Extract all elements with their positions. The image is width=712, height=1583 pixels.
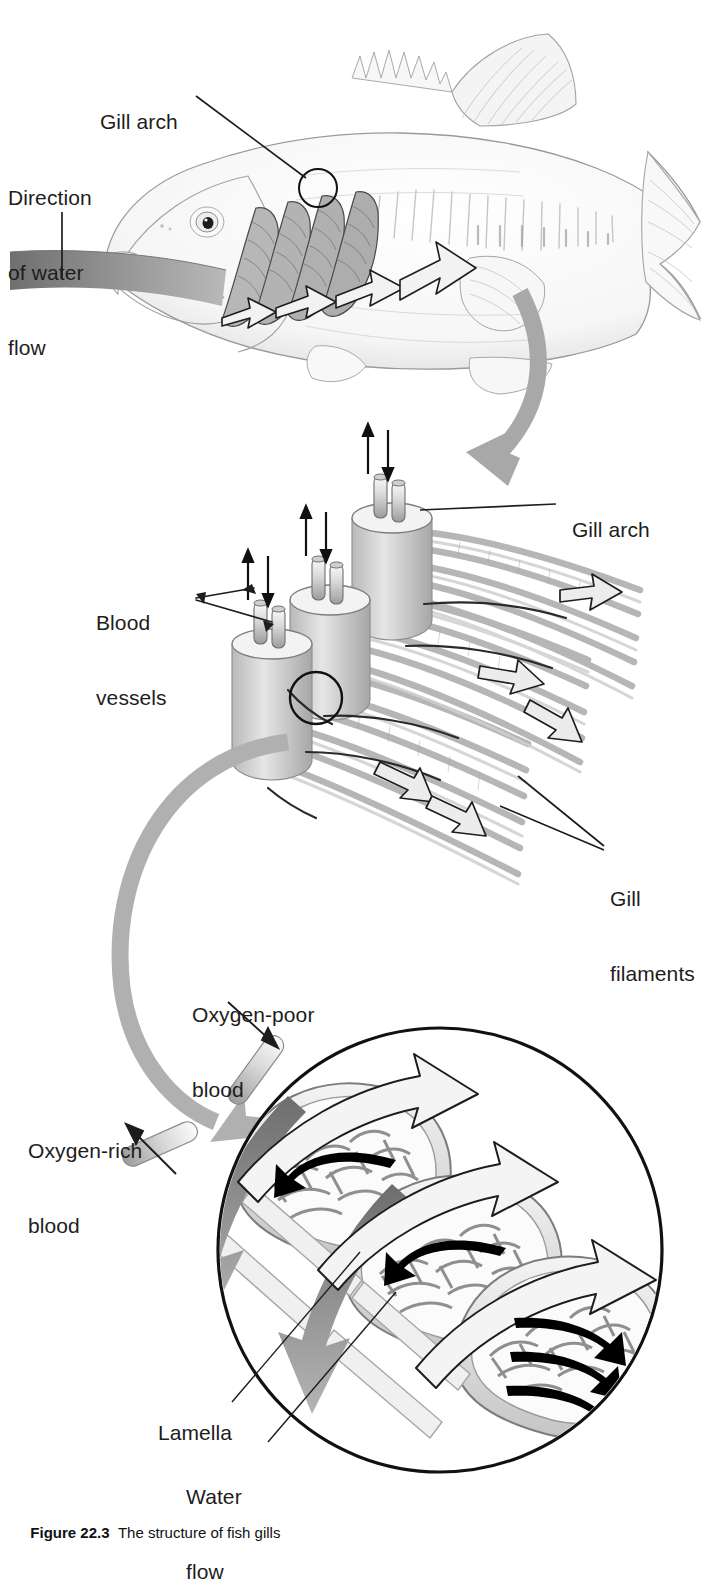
arch3-vessel-a (374, 476, 387, 518)
label-blood-vessels-line-2: vessels (96, 685, 167, 710)
label-oxygen-poor-line-2: blood (192, 1077, 315, 1102)
label-oxygen-rich-line-1: Oxygen-rich (28, 1138, 142, 1163)
label-oxygen-rich-line-2: blood (28, 1213, 142, 1238)
fish-eye (190, 207, 224, 237)
fish-dorsal-fin-spiny (352, 50, 452, 92)
label-oxygen-rich-blood: Oxygen-rich blood (28, 1088, 142, 1263)
label-gill-filaments-line-1: Gill (610, 886, 695, 911)
arch3-up-down-arrows (363, 424, 393, 480)
lamella-end-vessel (663, 1359, 689, 1381)
label-oxygen-poor-blood: Oxygen-poor blood (192, 952, 315, 1127)
arch2-up-down-arrows (301, 506, 331, 562)
label-gill-filaments-line-2: filaments (610, 961, 695, 986)
label-gill-arch-fish: Gill arch (88, 84, 178, 134)
fish-nostril (160, 224, 163, 227)
fish-dorsal-fin-soft (452, 34, 576, 126)
label-direction-of-water-flow: Direction of water flow (8, 135, 92, 385)
label-gill-arch-detail: Gill arch (560, 492, 650, 542)
label-gill-filaments: Gill filaments (610, 836, 695, 1011)
label-blood-vessels-line-1: Blood (96, 610, 167, 635)
arch1-up-down-arrows (243, 550, 273, 606)
label-direction-line-3: flow (8, 335, 92, 360)
label-direction-line-1: Direction (8, 185, 92, 210)
leader-gill-arch-detail (420, 504, 556, 510)
label-gill-arch-fish-text: Gill arch (100, 110, 178, 133)
label-water-flow-line-2: flow (186, 1559, 242, 1583)
arch3-vessel-b (392, 482, 405, 522)
figure-caption-number: Figure 22.3 (30, 1524, 109, 1541)
arch2-vessel-b (330, 564, 343, 604)
arch1-vessel-b (272, 608, 285, 648)
figure-caption: Figure 22.3 The structure of fish gills (22, 1506, 280, 1542)
label-oxygen-poor-line-1: Oxygen-poor (192, 1002, 315, 1027)
arch2-vessel-a (312, 558, 325, 600)
fish-nostril-2 (169, 228, 172, 231)
label-direction-line-2: of water (8, 260, 92, 285)
figure-caption-text: The structure of fish gills (118, 1524, 281, 1541)
leader-gill-filaments (500, 776, 604, 850)
label-blood-vessels: Blood vessels (96, 560, 167, 735)
label-gill-arch-detail-text: Gill arch (572, 518, 650, 541)
